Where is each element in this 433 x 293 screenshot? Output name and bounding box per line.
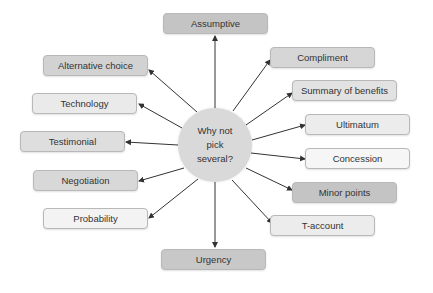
node-label: Assumptive [191,18,240,29]
node-alternative-choice: Alternative choice [43,55,148,76]
node-probability: Probability [43,208,148,229]
arrow-to-alternative-choice [149,70,197,112]
arrow-to-summary-of-benefits [246,93,292,125]
arrow-to-compliment [233,60,270,111]
node-label: Alternative choice [58,60,133,71]
node-label: Urgency [196,254,231,265]
diagram-canvas: Why not pick several? AssumptiveComplime… [0,0,433,293]
node-technology: Technology [32,93,137,114]
node-label: Ultimatum [336,119,379,130]
node-label: Concession [333,153,383,164]
node-t-account: T-account [270,215,375,236]
arrow-to-negotiation [139,168,184,181]
node-concession: Concession [305,148,410,169]
center-question-label: Why not pick several? [190,124,240,166]
node-label: Summary of benefits [301,85,388,96]
node-label: Probability [73,213,117,224]
node-label: Technology [60,98,108,109]
arrow-to-testimonial [126,142,178,145]
node-label: T-account [302,220,344,231]
node-ultimatum: Ultimatum [305,114,410,135]
node-urgency: Urgency [161,249,266,270]
node-label: Testimonial [49,136,97,147]
node-testimonial: Testimonial [20,131,125,152]
arrow-to-minor-points [246,168,292,190]
node-compliment: Compliment [270,47,375,68]
arrow-to-t-account [232,180,272,223]
node-summary-of-benefits: Summary of benefits [292,80,397,101]
arrow-to-concession [251,153,305,159]
center-question-circle: Why not pick several? [178,108,252,182]
node-minor-points: Minor points [292,182,397,203]
node-assumptive: Assumptive [163,13,268,34]
arrow-to-technology [139,104,182,128]
arrow-to-ultimatum [252,125,305,140]
node-negotiation: Negotiation [33,170,138,191]
arrow-to-probability [149,179,198,218]
node-label: Negotiation [61,175,109,186]
node-label: Minor points [319,187,371,198]
node-label: Compliment [297,52,348,63]
